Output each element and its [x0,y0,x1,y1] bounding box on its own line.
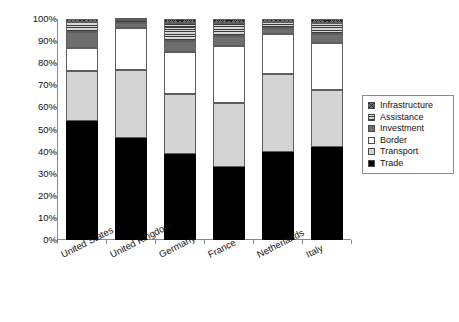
y-tick-label: 10% [9,213,57,223]
bar-segment-infrastructure [164,19,196,23]
x-tick-mark [351,240,352,244]
bar-segment-trade [115,138,147,240]
y-tick-label: 80% [9,58,57,68]
legend-swatch-infrastructure [368,102,375,109]
legend-label: Trade [380,159,403,168]
y-tick-label: 100% [9,14,57,24]
x-tick-mark [57,240,58,244]
x-tick-mark [106,240,107,244]
x-tick-label: Italy [304,242,325,260]
bar-segment-investment [213,36,245,46]
bar-segment-assistance [164,23,196,41]
bar-segment-assistance [262,22,294,28]
bar-united-kingdom [115,19,147,240]
bar-segment-assistance [213,23,245,35]
bar-segment-investment [164,41,196,52]
bar-segment-infrastructure [213,19,245,23]
y-tick-label: 20% [9,191,57,201]
y-tick-label: 0% [9,235,57,245]
legend-item[interactable]: Trade [366,158,449,170]
x-tick-mark [204,240,205,244]
legend-label: Assistance [380,113,424,122]
bar-germany [164,19,196,240]
legend-item[interactable]: Transport [366,146,449,158]
legend-swatch-transport [368,148,375,155]
bar-segment-border [262,34,294,74]
y-axis: 0%10%20%30%40%50%60%70%80%90%100% [0,0,57,260]
bar-netherlands [262,19,294,240]
x-tick-mark [155,240,156,244]
bar-segment-border [164,52,196,94]
bar-segment-assistance [66,22,98,32]
bar-segment-investment [66,32,98,47]
bar-segment-investment [262,28,294,35]
bar-segment-transport [311,90,343,147]
bar-italy [311,19,343,240]
x-tick-mark [302,240,303,244]
chart-legend: InfrastructureAssistanceInvestmentBorder… [362,95,454,174]
bar-segment-infrastructure [66,19,98,22]
legend-swatch-assistance [368,114,375,121]
bar-segment-assistance [311,23,343,34]
bar-united-states [66,19,98,240]
legend-label: Transport [380,147,418,156]
bar-segment-border [115,28,147,70]
bar-france [213,19,245,240]
legend-item[interactable]: Assistance [366,112,449,124]
x-tick-mark [253,240,254,244]
y-tick-label: 40% [9,147,57,157]
legend-item[interactable]: Investment [366,123,449,135]
bar-segment-infrastructure [262,19,294,22]
bar-segment-infrastructure [311,19,343,23]
bar-segment-transport [115,70,147,139]
y-tick-label: 70% [9,80,57,90]
bar-segment-investment [115,23,147,27]
y-tick-label: 30% [9,169,57,179]
bar-segment-trade [262,152,294,240]
legend-swatch-trade [368,160,375,167]
bar-segment-border [213,46,245,103]
bar-segment-trade [213,167,245,240]
x-tick-label: France [206,237,237,260]
legend-swatch-investment [368,125,375,132]
legend-swatch-border [368,137,375,144]
plot-area [57,19,351,240]
legend-label: Infrastructure [380,101,433,110]
bar-segment-investment [311,34,343,43]
y-tick-label: 60% [9,102,57,112]
legend-label: Investment [380,124,424,133]
bar-segment-trade [311,147,343,240]
bar-segment-infrastructure [115,18,147,20]
bar-segment-border [311,43,343,89]
y-tick-label: 50% [9,125,57,135]
bar-segment-trade [66,121,98,240]
bar-segment-assistance [115,20,147,23]
legend-item[interactable]: Border [366,135,449,147]
bar-segment-transport [213,103,245,167]
bar-segment-border [66,48,98,71]
bar-segment-transport [66,71,98,121]
stacked-bar-chart: 0%10%20%30%40%50%60%70%80%90%100% United… [0,0,459,322]
bar-segment-transport [164,94,196,154]
legend-item[interactable]: Infrastructure [366,100,449,112]
y-tick-label: 90% [9,36,57,46]
legend-label: Border [380,136,407,145]
bar-segment-transport [262,74,294,151]
